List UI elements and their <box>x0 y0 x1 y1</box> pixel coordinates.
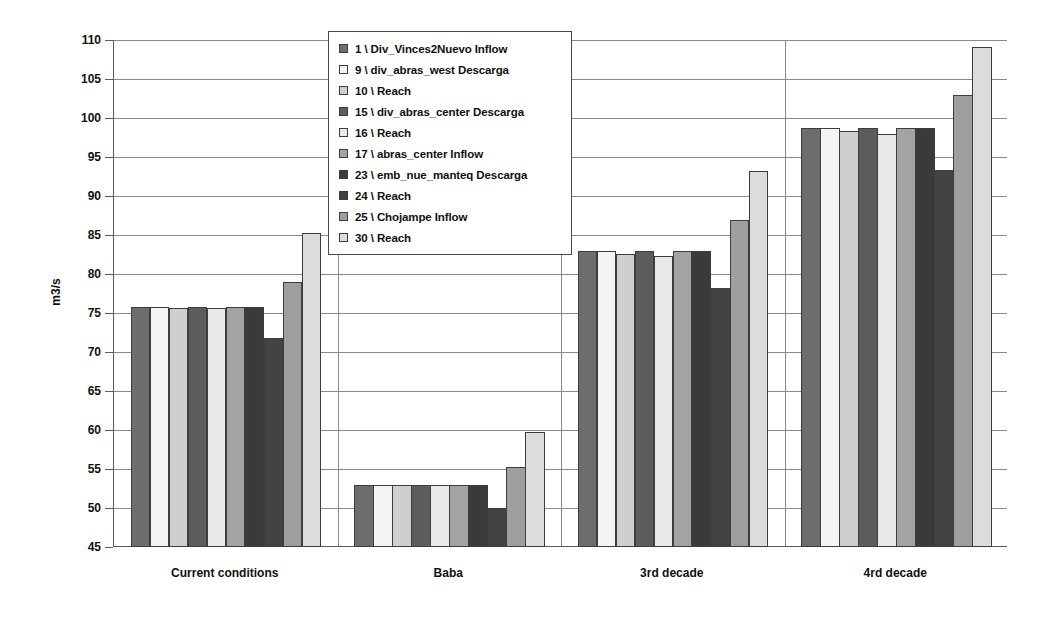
y-tick-mark <box>105 508 113 509</box>
legend-item[interactable]: 10 \ Reach <box>339 80 563 101</box>
y-tick-label: 105 <box>61 73 101 85</box>
legend-swatch-icon <box>339 128 348 137</box>
y-tick-mark <box>105 118 113 119</box>
bar <box>692 251 712 547</box>
y-tick-label: 65 <box>61 385 101 397</box>
y-tick-mark <box>105 352 113 353</box>
legend-item[interactable]: 17 \ abras_center Inflow <box>339 143 563 164</box>
y-tick-mark <box>105 40 113 41</box>
legend-swatch-icon <box>339 170 348 179</box>
bar <box>858 128 878 547</box>
bar <box>801 128 821 547</box>
bar <box>578 251 598 547</box>
legend-swatch-icon <box>339 107 348 116</box>
bar <box>131 307 151 547</box>
legend-item[interactable]: 23 \ emb_nue_manteq Descarga <box>339 164 563 185</box>
bar <box>506 467 526 547</box>
bar <box>226 307 246 547</box>
bar <box>915 128 935 547</box>
legend-swatch-icon <box>339 86 348 95</box>
bar <box>430 485 450 547</box>
category-separator <box>785 40 786 546</box>
legend-item-label: 15 \ div_abras_center Descarga <box>355 106 524 118</box>
y-tick-label: 100 <box>61 112 101 124</box>
bar <box>972 47 992 547</box>
bar <box>953 95 973 547</box>
bar <box>169 308 189 547</box>
bar <box>283 282 303 547</box>
y-tick-label: 50 <box>61 502 101 514</box>
bar <box>302 233 322 547</box>
legend-item-label: 17 \ abras_center Inflow <box>355 148 483 160</box>
bar <box>411 485 431 547</box>
bar <box>820 128 840 547</box>
legend-item-label: 25 \ Chojampe Inflow <box>355 211 467 223</box>
y-tick-mark <box>105 157 113 158</box>
y-tick-label: 80 <box>61 268 101 280</box>
bar <box>188 307 208 547</box>
bar <box>934 170 954 547</box>
y-tick-mark <box>105 313 113 314</box>
bar <box>616 254 636 547</box>
legend-swatch-icon <box>339 65 348 74</box>
legend-item[interactable]: 9 \ div_abras_west Descarga <box>339 59 563 80</box>
legend-item-label: 16 \ Reach <box>355 127 411 139</box>
y-tick-label: 95 <box>61 151 101 163</box>
legend-swatch-icon <box>339 149 348 158</box>
bar <box>207 308 227 547</box>
legend-item-label: 30 \ Reach <box>355 232 411 244</box>
bar <box>487 508 507 547</box>
bar <box>749 171 769 547</box>
bar <box>673 251 693 547</box>
legend-item[interactable]: 25 \ Chojampe Inflow <box>339 206 563 227</box>
legend-item-label: 10 \ Reach <box>355 85 411 97</box>
y-tick-label: 85 <box>61 229 101 241</box>
y-tick-mark <box>105 235 113 236</box>
y-tick-label: 110 <box>61 34 101 46</box>
legend-item[interactable]: 1 \ Div_Vinces2Nuevo Inflow <box>339 38 563 59</box>
bar <box>654 256 674 547</box>
y-tick-mark <box>105 469 113 470</box>
legend-item[interactable]: 24 \ Reach <box>339 185 563 206</box>
y-tick-mark <box>105 196 113 197</box>
bar <box>711 288 731 547</box>
bar <box>354 485 374 547</box>
legend-item[interactable]: 16 \ Reach <box>339 122 563 143</box>
y-tick-mark <box>105 547 113 548</box>
y-tick-label: 90 <box>61 190 101 202</box>
x-axis-category-label: Current conditions <box>113 566 337 580</box>
bar <box>597 251 617 547</box>
chart-legend: 1 \ Div_Vinces2Nuevo Inflow9 \ div_abras… <box>328 31 572 255</box>
y-tick-mark <box>105 274 113 275</box>
y-tick-mark <box>105 391 113 392</box>
bar <box>877 134 897 547</box>
bar <box>245 307 265 547</box>
y-tick-label: 75 <box>61 307 101 319</box>
bar <box>449 485 469 547</box>
bar <box>150 307 170 547</box>
bar <box>839 131 859 547</box>
legend-item-label: 23 \ emb_nue_manteq Descarga <box>355 169 527 181</box>
bar <box>392 485 412 547</box>
bar <box>635 251 655 547</box>
bar <box>373 485 393 547</box>
legend-item-label: 1 \ Div_Vinces2Nuevo Inflow <box>355 43 507 55</box>
y-tick-label: 60 <box>61 424 101 436</box>
bar-chart: m3/s 4550556065707580859095100105110 Cur… <box>0 0 1057 633</box>
y-tick-label: 55 <box>61 463 101 475</box>
legend-swatch-icon <box>339 233 348 242</box>
bar <box>730 220 750 547</box>
legend-item-label: 9 \ div_abras_west Descarga <box>355 64 509 76</box>
bar <box>896 128 916 547</box>
legend-swatch-icon <box>339 44 348 53</box>
bar <box>468 485 488 547</box>
bar <box>525 432 545 547</box>
legend-swatch-icon <box>339 212 348 221</box>
legend-item[interactable]: 30 \ Reach <box>339 227 563 248</box>
y-tick-label: 70 <box>61 346 101 358</box>
y-tick-mark <box>105 79 113 80</box>
x-axis-category-label: 4rd decade <box>784 566 1008 580</box>
bar <box>264 338 284 547</box>
legend-item[interactable]: 15 \ div_abras_center Descarga <box>339 101 563 122</box>
x-axis-category-label: Baba <box>337 566 561 580</box>
